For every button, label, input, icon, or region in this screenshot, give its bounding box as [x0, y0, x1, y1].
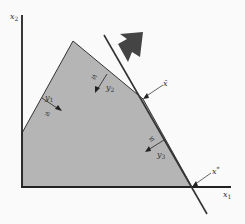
arrow-head-icon — [143, 93, 149, 99]
arrow-head-icon — [192, 181, 198, 187]
lp-diagram: ≤ y1 ≤ y2 ≤ y3 x̄ x* x2 x1 — [0, 0, 245, 224]
x-bar-label: x̄ — [163, 79, 168, 88]
x-star-label: x* — [212, 165, 220, 176]
x-axis-label: x1 — [223, 190, 231, 200]
y-axis-label: x2 — [10, 12, 19, 22]
objective-direction-arrow — [118, 32, 143, 62]
